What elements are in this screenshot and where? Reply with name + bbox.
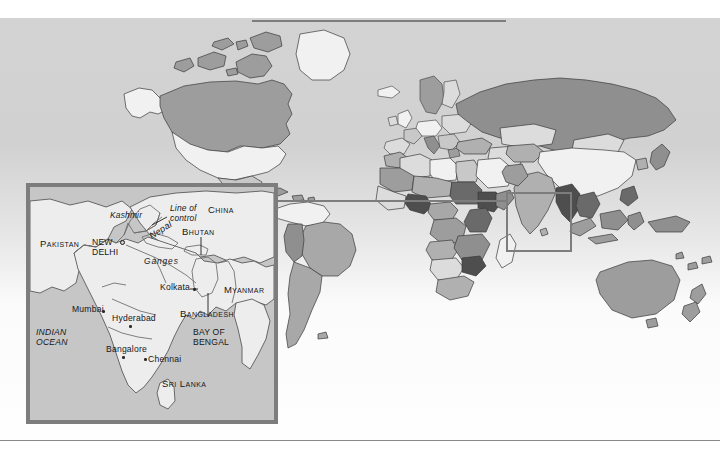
inset-label-ganges: Ganges [144, 257, 179, 265]
country-korea [636, 158, 648, 170]
inset-dot-kolkata [193, 288, 196, 291]
inset-label-indian-ocean: INDIAN OCEAN [36, 327, 68, 348]
inset-label-chennai: Chennai [148, 355, 181, 364]
inset-label-new-delhi: NEW DELHI [92, 237, 118, 258]
inset-dot-hyderabad [129, 325, 132, 328]
inset-label-bhutan: Bhutan [182, 227, 215, 237]
inset-label-kashmir: Kashmir [110, 211, 142, 219]
country-ireland [388, 116, 398, 126]
inset-label-myanmar: Myanmar [224, 285, 265, 295]
inset-label-china: China [208, 205, 234, 215]
inset-map-canvas: Pakistan Kashmir Line of control China N… [30, 187, 274, 420]
inset-label-hyderabad: Hyderabad [112, 314, 156, 323]
inset-dot-new-delhi [120, 240, 125, 245]
inset-map-svg [30, 187, 274, 420]
inset-label-bangladesh: Bangladesh [180, 309, 234, 319]
inset-label-pakistan: Pakistan [40, 239, 79, 249]
inset-label-line-of-control: Line of control [170, 203, 197, 224]
inset-label-mumbai: Mumbai [72, 305, 104, 314]
figure-canvas: Pakistan Kashmir Line of control China N… [0, 0, 720, 451]
island-tasmania [646, 318, 658, 328]
inset-dot-chennai [144, 358, 147, 361]
south-asia-highlight-box[interactable] [506, 192, 572, 252]
inset-label-bay-of-bengal: BAY OF BENGAL [193, 327, 229, 348]
inset-label-kolkata: Kolkata [160, 283, 190, 292]
inset-map-south-asia[interactable]: Pakistan Kashmir Line of control China N… [26, 183, 278, 424]
inset-label-bangalore: Bangalore [106, 345, 147, 354]
inset-dot-mumbai [102, 310, 105, 313]
inset-label-sri-lanka: Sri Lanka [162, 379, 206, 389]
country-germany-poland [416, 120, 442, 136]
inset-dot-bangalore [122, 356, 125, 359]
